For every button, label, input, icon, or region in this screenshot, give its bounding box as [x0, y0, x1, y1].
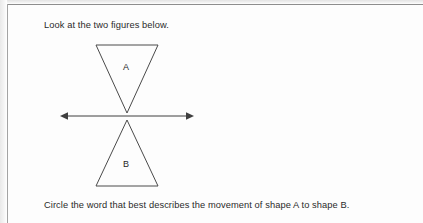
- arrowhead-right-icon: [186, 112, 194, 119]
- triangle-shape-b: [96, 120, 158, 186]
- question-prompt-top: Look at the two figures below.: [44, 19, 169, 31]
- page-border-top: [7, 4, 423, 5]
- shape-label-b: B: [123, 159, 129, 169]
- arrowhead-left-icon: [60, 112, 68, 119]
- shape-label-a: A: [123, 62, 129, 72]
- figure-diagram: [0, 0, 423, 223]
- question-prompt-bottom: Circle the word that best describes the …: [44, 199, 349, 211]
- figure-svg: [0, 0, 423, 223]
- worksheet-page: Look at the two figures below. A B Circl…: [0, 0, 423, 223]
- scan-edge-left: [0, 0, 7, 223]
- page-border-left: [7, 4, 8, 223]
- triangle-shape-a: [96, 45, 158, 113]
